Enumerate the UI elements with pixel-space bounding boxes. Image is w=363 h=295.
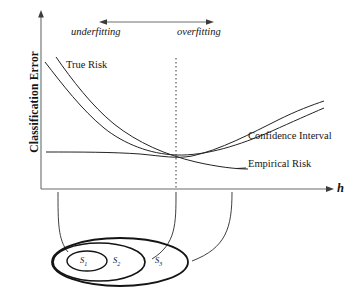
set-connector-right [192, 192, 232, 261]
label-underfitting: underfitting [71, 27, 121, 38]
label-true-risk: True Risk [66, 60, 107, 71]
y-axis-arrowhead [38, 10, 44, 18]
set-label-middle: S2 [113, 256, 120, 267]
regime-arrow-right-head [206, 19, 214, 24]
set-label-outer: S3 [155, 256, 162, 267]
figure-canvas [0, 0, 363, 295]
set-label-inner: S1 [80, 256, 87, 267]
set-label-middle-subscript: 2 [117, 261, 120, 267]
set-connector-middle [152, 192, 176, 259]
label-confidence-interval: Confidence Interval [248, 131, 332, 142]
regime-arrow-left-head [99, 19, 107, 24]
srm-figure: Classification Error h underfitting over… [0, 0, 363, 295]
set-connector-left [58, 192, 68, 252]
set-label-inner-subscript: 1 [84, 261, 87, 267]
x-axis-arrowhead [326, 186, 334, 192]
label-overfitting: overfitting [177, 27, 221, 38]
regime-arrow-group [99, 19, 214, 24]
empirical-risk-leader [236, 168, 246, 169]
x-axis-title: h [337, 182, 344, 195]
y-axis-title: Classification Error [29, 37, 41, 167]
set-label-outer-subscript: 3 [159, 261, 162, 267]
label-empirical-risk: Empirical Risk [248, 159, 311, 170]
